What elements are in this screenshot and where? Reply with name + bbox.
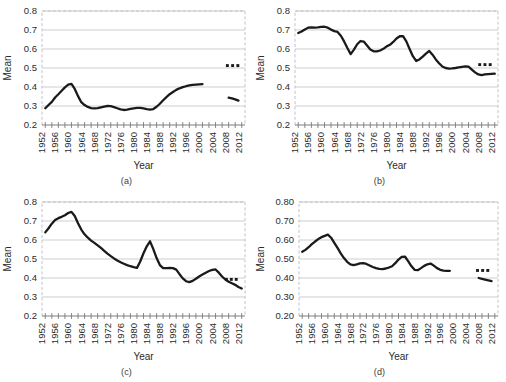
xtick-label: 1964 bbox=[76, 132, 87, 153]
xtick-label: 1964 bbox=[332, 323, 343, 344]
xtick-label: 1964 bbox=[329, 132, 340, 153]
ytick-label: 0.20 bbox=[276, 310, 295, 321]
ytick-label: 0.4 bbox=[277, 81, 290, 92]
panel-d-caption: (d) bbox=[253, 367, 506, 377]
xtick-label: 1984 bbox=[396, 323, 407, 344]
xtick-label: 1960 bbox=[62, 132, 73, 153]
ytick-label: 0.7 bbox=[24, 24, 37, 35]
ellipsis-dot-icon bbox=[231, 64, 234, 67]
ytick-label: 0.8 bbox=[277, 5, 290, 16]
xtick-label: 1980 bbox=[381, 132, 392, 153]
ytick-label: 0.3 bbox=[24, 291, 37, 302]
ytick-label: 0.5 bbox=[24, 253, 37, 264]
xtick-label: 1988 bbox=[409, 323, 420, 344]
ellipsis-dot-icon bbox=[486, 269, 489, 272]
xtick-label: 1980 bbox=[128, 323, 139, 344]
ytick-label: 0.5 bbox=[277, 62, 290, 73]
x-axis-title: Year bbox=[133, 351, 154, 362]
xtick-label: 1952 bbox=[36, 323, 47, 344]
panel-b-caption: (b) bbox=[253, 176, 506, 186]
ellipsis-dot-icon bbox=[230, 278, 233, 281]
x-axis-title: Year bbox=[388, 351, 409, 362]
panel-d: 0.200.300.400.500.600.700.80Mean19521956… bbox=[253, 191, 506, 382]
y-axis-title: Mean bbox=[255, 246, 266, 271]
xtick-label: 1976 bbox=[115, 323, 126, 344]
xtick-label: 1956 bbox=[306, 323, 317, 344]
figure-root: 0.20.30.40.50.60.70.8Mean195219561960196… bbox=[0, 0, 506, 382]
xtick-label: 1984 bbox=[141, 132, 152, 153]
xtick-label: 2012 bbox=[233, 323, 244, 344]
xtick-label: 1976 bbox=[368, 132, 379, 153]
data-line-forecast bbox=[479, 278, 492, 281]
ellipsis-dot-icon bbox=[226, 64, 229, 67]
xtick-label: 1992 bbox=[420, 132, 431, 153]
ytick-label: 0.2 bbox=[24, 119, 37, 130]
xtick-label: 1980 bbox=[128, 132, 139, 153]
xtick-label: 2004 bbox=[460, 132, 471, 153]
panel-a-chart: 0.20.30.40.50.60.70.8Mean195219561960196… bbox=[0, 0, 253, 176]
xtick-label: 2000 bbox=[193, 323, 204, 344]
ytick-label: 0.3 bbox=[24, 100, 37, 111]
xtick-label: 1972 bbox=[357, 323, 368, 344]
x-axis-title: Year bbox=[386, 160, 407, 171]
xtick-label: 1972 bbox=[355, 132, 366, 153]
xtick-label: 2008 bbox=[220, 323, 231, 344]
data-line-forecast bbox=[229, 98, 239, 101]
xtick-label: 2012 bbox=[233, 132, 244, 153]
ytick-label: 0.7 bbox=[277, 24, 290, 35]
xtick-label: 1952 bbox=[293, 323, 304, 344]
xtick-label: 1972 bbox=[102, 323, 113, 344]
xtick-label: 2008 bbox=[473, 132, 484, 153]
x-axis-title: Year bbox=[133, 160, 154, 171]
xtick-label: 1956 bbox=[49, 323, 60, 344]
xtick-label: 2008 bbox=[473, 323, 484, 344]
xtick-label: 1952 bbox=[36, 132, 47, 153]
xtick-label: 1992 bbox=[167, 132, 178, 153]
xtick-label: 1996 bbox=[434, 323, 445, 344]
xtick-label: 1968 bbox=[345, 323, 356, 344]
ellipsis-dot-icon bbox=[476, 269, 479, 272]
xtick-label: 1988 bbox=[154, 323, 165, 344]
panel-c: 0.20.30.40.50.60.70.8Mean195219561960196… bbox=[0, 191, 253, 382]
panel-c-caption: (c) bbox=[0, 367, 253, 377]
ytick-label: 0.8 bbox=[24, 196, 37, 207]
xtick-label: 2008 bbox=[220, 132, 231, 153]
xtick-label: 1988 bbox=[407, 132, 418, 153]
chart-d: 0.200.300.400.500.600.700.80Mean19521956… bbox=[253, 191, 506, 367]
y-axis-title: Mean bbox=[2, 55, 13, 80]
xtick-label: 1996 bbox=[180, 132, 191, 153]
ellipsis-dot-icon bbox=[235, 278, 238, 281]
ytick-label: 0.2 bbox=[277, 119, 290, 130]
ytick-label: 0.4 bbox=[24, 81, 37, 92]
ytick-label: 0.6 bbox=[24, 43, 37, 54]
xtick-label: 2012 bbox=[486, 132, 497, 153]
y-axis-title: Mean bbox=[255, 55, 266, 80]
ellipsis-dot-icon bbox=[484, 63, 487, 66]
ytick-label: 0.5 bbox=[24, 62, 37, 73]
ytick-label: 0.6 bbox=[277, 43, 290, 54]
xtick-label: 1972 bbox=[102, 132, 113, 153]
ytick-label: 0.80 bbox=[276, 196, 295, 207]
xtick-label: 1960 bbox=[319, 323, 330, 344]
xtick-label: 1976 bbox=[115, 132, 126, 153]
ytick-label: 0.60 bbox=[276, 234, 295, 245]
xtick-label: 1968 bbox=[342, 132, 353, 153]
ytick-label: 0.70 bbox=[276, 215, 295, 226]
xtick-label: 1956 bbox=[302, 132, 313, 153]
chart-b: 0.20.30.40.50.60.70.8Mean195219561960196… bbox=[253, 0, 506, 176]
ellipsis-dot-icon bbox=[489, 63, 492, 66]
ellipsis-dot-icon bbox=[225, 278, 228, 281]
ellipsis-dot-icon bbox=[481, 269, 484, 272]
chart-c: 0.20.30.40.50.60.70.8Mean195219561960196… bbox=[0, 191, 253, 367]
xtick-label: 1984 bbox=[141, 323, 152, 344]
xtick-label: 2004 bbox=[460, 323, 471, 344]
ellipsis-dot-icon bbox=[478, 63, 481, 66]
ytick-label: 0.7 bbox=[24, 215, 37, 226]
panel-a: 0.20.30.40.50.60.70.8Mean195219561960196… bbox=[0, 0, 253, 191]
xtick-label: 2000 bbox=[447, 323, 458, 344]
xtick-label: 1996 bbox=[433, 132, 444, 153]
xtick-label: 1992 bbox=[422, 323, 433, 344]
ytick-label: 0.8 bbox=[24, 5, 37, 16]
panel-a-caption: (a) bbox=[0, 176, 253, 186]
xtick-label: 1960 bbox=[62, 323, 73, 344]
